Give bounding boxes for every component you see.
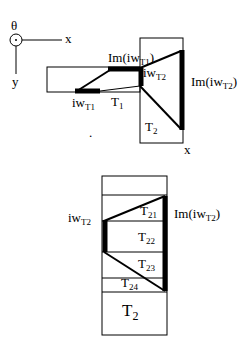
t1-label: T1: [111, 94, 123, 111]
t1-bottom-edge: [100, 86, 140, 91]
x-axis-label: x: [65, 31, 72, 46]
t2-label: T2: [145, 119, 157, 136]
diagram-canvas: θ x y Im(iwT1) iwT1 T1 iwT2 Im(iwT2) T2 …: [0, 0, 249, 347]
theta-axis-dot: [15, 39, 17, 41]
t1-left-edge: [77, 70, 110, 91]
t22-label: T22: [138, 229, 155, 246]
im-iw-t2-label: Im(iwT2): [191, 74, 237, 91]
bottom-diagram: T21 T22 T23 T24 T2 iwT2 Im(iwT2): [68, 176, 220, 335]
t21-label: T21: [140, 203, 157, 220]
t23-label: T23: [138, 256, 155, 273]
im-iw-t2-label-bottom: Im(iwT2): [174, 206, 220, 223]
t2-bottom-label: T2: [122, 301, 138, 323]
y-axis-label: y: [12, 74, 19, 89]
x-label-bottom: x: [184, 142, 191, 157]
theta-label: θ: [11, 18, 17, 33]
axes-indicator: θ x y: [10, 18, 72, 89]
iw-t1-label: iwT1: [72, 95, 95, 112]
dot-marker: .: [89, 125, 92, 140]
iw-t2-label: iwT2: [143, 65, 166, 82]
top-diagram: Im(iwT1) iwT1 T1 iwT2 Im(iwT2) T2 x .: [47, 38, 237, 157]
iw-t2-label-bottom: iwT2: [68, 210, 91, 227]
